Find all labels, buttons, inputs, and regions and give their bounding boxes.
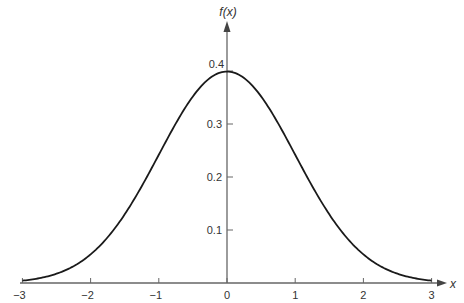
y-ticks: 0.10.20.30.4 [207,58,233,236]
y-axis-arrow-icon [224,21,231,32]
y-tick-label: 0.3 [207,118,222,130]
normal-distribution-chart: x f(x) −3−2−10123 0.10.20.30.4 [0,0,464,303]
x-tick-label: −1 [150,289,163,301]
x-tick-label: 0 [224,289,230,301]
x-tick-label: 2 [360,289,366,301]
x-axis-arrow-icon [437,280,447,287]
y-axis-label: f(x) [219,5,236,19]
x-tick-label: −2 [81,289,94,301]
y-tick-label: 0.4 [209,58,224,70]
x-tick-label: 3 [429,289,435,301]
y-tick-label: 0.2 [207,171,222,183]
x-axis-label: x [449,277,457,291]
x-ticks: −3−2−10123 [13,278,435,301]
y-tick-label: 0.1 [207,224,222,236]
x-tick-label: 1 [292,289,298,301]
x-tick-label: −3 [13,289,26,301]
